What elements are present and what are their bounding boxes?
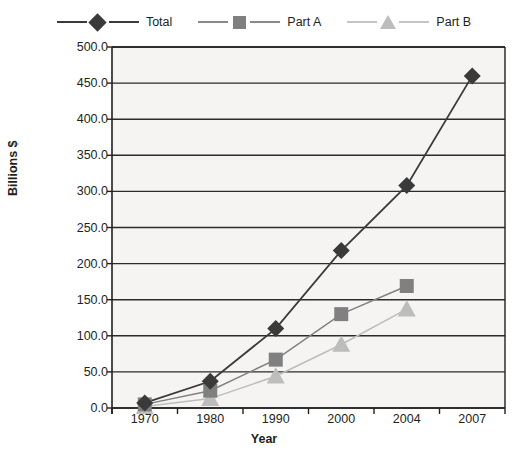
line-chart: Total Part A Part B Billions $ 500.0450.… — [0, 0, 528, 455]
data-point-part-a-1990[interactable] — [269, 353, 283, 367]
plot-area — [0, 0, 528, 455]
data-point-part-a-2004[interactable] — [400, 279, 414, 293]
data-point-part-a-2000[interactable] — [334, 307, 348, 321]
